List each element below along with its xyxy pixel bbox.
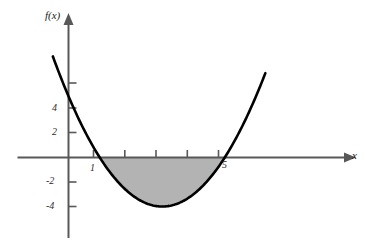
y-tick-label-2: 2	[52, 127, 57, 137]
x-tick-label-1: 1	[90, 163, 95, 173]
parabola-plot	[0, 0, 372, 246]
y-tick-label-minus-2: -2	[46, 176, 54, 186]
y-axis-label: f(x)	[45, 10, 60, 21]
figure-container: f(x) x 4 2 -2 -4 1 5	[0, 0, 372, 246]
y-axis-arrow	[64, 13, 74, 25]
x-tick-label-5: 5	[222, 160, 227, 170]
x-axis-label: x	[352, 150, 357, 161]
y-tick-label-minus-4: -4	[46, 201, 54, 211]
y-tick-label-4: 4	[52, 103, 57, 113]
x-axis-ticks	[94, 150, 219, 158]
